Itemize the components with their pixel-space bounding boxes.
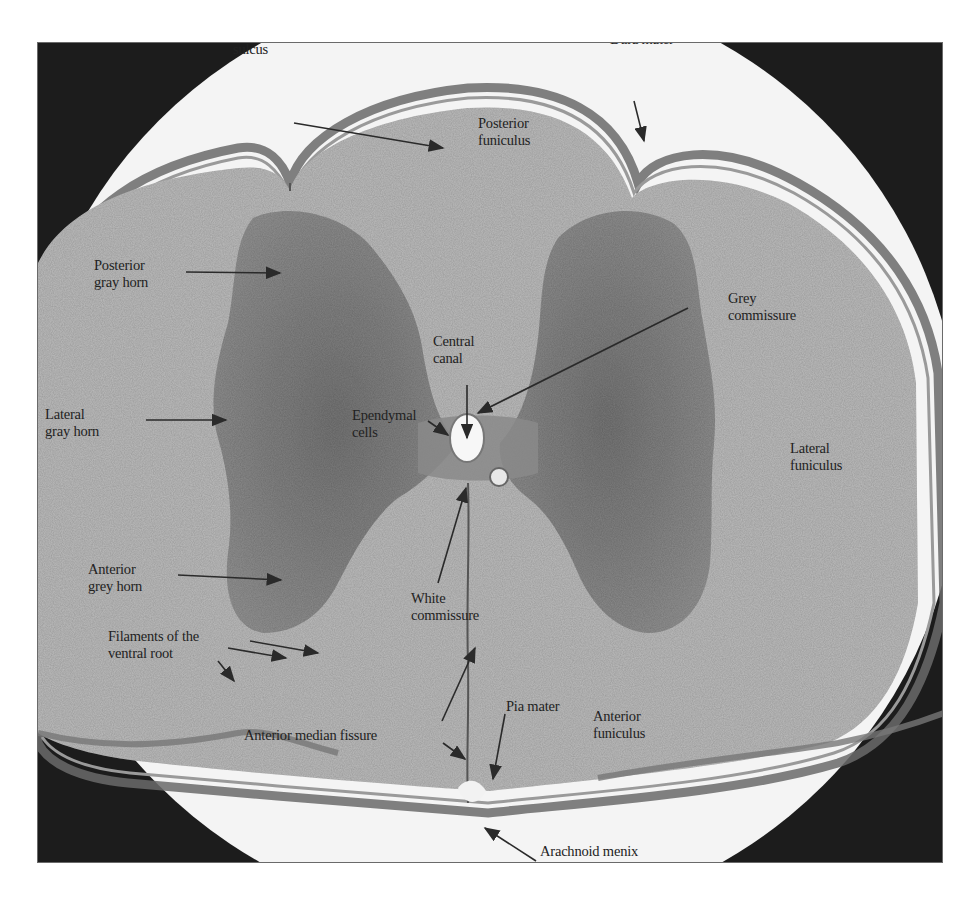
label-pia-mater: Pia mater xyxy=(506,698,559,715)
arrow-posterior-gray-horn xyxy=(186,272,280,273)
anterior-median-fissure xyxy=(467,483,468,803)
label-lateral-gray-horn: Lateral gray horn xyxy=(45,406,99,440)
label-dura-mater: Dura mater xyxy=(610,42,674,48)
micrograph-figure: Posterior median sulcus Dura mater Poste… xyxy=(37,42,943,863)
label-posterior-funiculus: Posterior funiculus xyxy=(478,115,530,149)
label-anterior-grey-horn: Anterior grey horn xyxy=(88,561,142,595)
label-anterior-median-fissure: Anterior median fissure xyxy=(244,727,377,744)
label-arachnoid-menix: Arachnoid menix xyxy=(540,843,638,860)
label-filaments-ventral-root: Filaments of the ventral root xyxy=(108,628,199,662)
label-grey-commissure: Grey commissure xyxy=(728,290,796,324)
label-anterior-funiculus: Anterior funiculus xyxy=(593,708,645,742)
label-white-commissure: White commissure xyxy=(411,590,479,624)
label-lateral-funiculus: Lateral funiculus xyxy=(790,440,842,474)
label-central-canal: Central canal xyxy=(433,333,474,367)
label-ependymal-cells: Ependymal cells xyxy=(352,407,416,441)
label-posterior-median-sulcus: Posterior median sulcus xyxy=(233,42,328,58)
label-posterior-gray-horn: Posterior gray horn xyxy=(94,257,148,291)
